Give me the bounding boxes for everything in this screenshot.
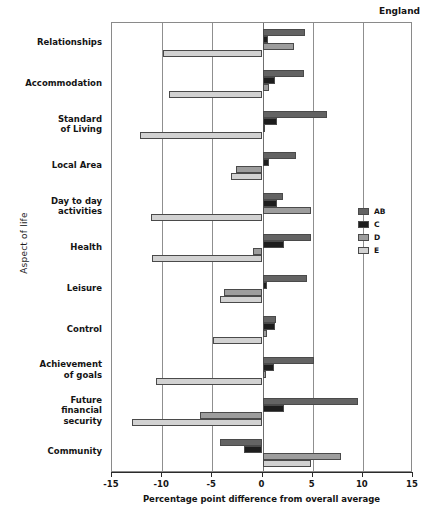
- bar-c-3: [263, 159, 269, 166]
- bar-ab-4: [263, 193, 283, 200]
- bar-d-6: [224, 289, 262, 296]
- bar-e-10: [263, 460, 311, 467]
- category-label: Community: [0, 446, 102, 457]
- x-tick: [362, 472, 363, 477]
- x-tick: [211, 472, 212, 477]
- legend-label: AB: [374, 207, 386, 216]
- bar-ab-2: [263, 111, 327, 118]
- bar-d-3: [236, 166, 262, 173]
- x-tick: [412, 472, 413, 477]
- bar-c-10: [244, 446, 262, 453]
- bar-group: [112, 111, 411, 139]
- x-tick: [312, 472, 313, 477]
- x-tick-label: 5: [292, 479, 332, 489]
- bar-d-9: [200, 412, 262, 419]
- category-label: Standardof Living: [0, 114, 102, 135]
- bar-d-1: [263, 84, 269, 91]
- bar-c-8: [263, 364, 274, 371]
- category-label: Health: [0, 242, 102, 253]
- legend-swatch-icon: [358, 208, 369, 215]
- chart-legend: ABCDE: [358, 205, 410, 257]
- category-label: Control: [0, 324, 102, 335]
- x-tick-label: 0: [242, 479, 282, 489]
- bar-d-0: [263, 43, 294, 50]
- x-tick: [161, 472, 162, 477]
- bar-e-2: [140, 132, 262, 139]
- bar-ab-1: [263, 70, 304, 77]
- bar-e-0: [163, 50, 262, 57]
- x-tick-label: 15: [392, 479, 432, 489]
- legend-label: C: [374, 220, 380, 229]
- bar-ab-10: [220, 439, 262, 446]
- bar-ab-3: [263, 152, 296, 159]
- category-label: Futurefinancialsecurity: [0, 395, 102, 427]
- x-axis: -15-10-5051015: [111, 472, 412, 473]
- bar-c-2: [263, 118, 277, 125]
- category-label: Leisure: [0, 283, 102, 294]
- bar-d-4: [263, 207, 311, 214]
- x-tick-label: 10: [342, 479, 382, 489]
- bar-c-5: [263, 241, 284, 248]
- x-tick-label: -15: [91, 479, 131, 489]
- legend-item-e[interactable]: E: [358, 244, 410, 257]
- x-axis-title: Percentage point difference from overall…: [111, 494, 412, 504]
- bar-group: [112, 398, 411, 426]
- bar-c-1: [263, 77, 275, 84]
- legend-swatch-icon: [358, 247, 369, 254]
- category-label: Day to dayactivities: [0, 196, 102, 217]
- bar-d-2: [263, 125, 265, 132]
- bar-c-7: [263, 323, 275, 330]
- bar-e-8: [156, 378, 262, 385]
- bar-ab-5: [263, 234, 311, 241]
- category-label: Achievementof goals: [0, 359, 102, 380]
- category-axis-labels: RelationshipsAccommodationStandardof Liv…: [0, 22, 106, 472]
- legend-swatch-icon: [358, 234, 369, 241]
- bar-ab-6: [263, 275, 307, 282]
- legend-label: E: [374, 246, 379, 255]
- x-tick: [111, 472, 112, 477]
- bar-group: [112, 316, 411, 344]
- chart-annotation-england: England: [379, 6, 420, 16]
- x-tick-label: -5: [191, 479, 231, 489]
- bar-group: [112, 29, 411, 57]
- category-label: Accommodation: [0, 78, 102, 89]
- legend-item-ab[interactable]: AB: [358, 205, 410, 218]
- category-label: Relationships: [0, 37, 102, 48]
- bar-ab-7: [263, 316, 276, 323]
- legend-swatch-icon: [358, 221, 369, 228]
- bar-c-6: [263, 282, 267, 289]
- bar-ab-0: [263, 29, 305, 36]
- legend-item-c[interactable]: C: [358, 218, 410, 231]
- bar-ab-8: [263, 357, 314, 364]
- bar-e-6: [220, 296, 262, 303]
- x-tick-label: -10: [141, 479, 181, 489]
- bar-d-5: [253, 248, 262, 255]
- bar-e-7: [213, 337, 262, 344]
- x-tick: [262, 472, 263, 477]
- bar-group: [112, 152, 411, 180]
- bar-c-9: [263, 405, 284, 412]
- bar-c-4: [263, 200, 277, 207]
- legend-label: D: [374, 233, 380, 242]
- bar-e-4: [151, 214, 262, 221]
- bar-d-8: [263, 371, 266, 378]
- bar-d-10: [263, 453, 341, 460]
- bar-e-1: [169, 91, 262, 98]
- legend-item-d[interactable]: D: [358, 231, 410, 244]
- bar-group: [112, 275, 411, 303]
- bar-e-5: [152, 255, 262, 262]
- bar-group: [112, 70, 411, 98]
- bar-e-9: [132, 419, 262, 426]
- bar-group: [112, 439, 411, 467]
- bar-d-7: [263, 330, 267, 337]
- bar-group: [112, 357, 411, 385]
- category-label: Local Area: [0, 160, 102, 171]
- bar-e-3: [231, 173, 262, 180]
- bar-ab-9: [263, 398, 358, 405]
- chart-figure: England Aspect of life RelationshipsAcco…: [0, 0, 434, 532]
- bar-c-0: [263, 36, 268, 43]
